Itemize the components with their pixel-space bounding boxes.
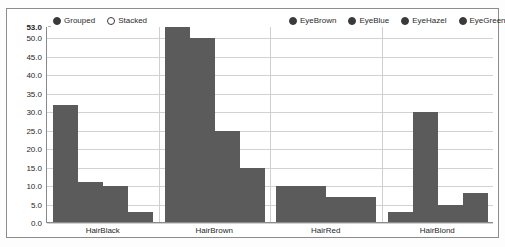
bar[interactable] xyxy=(215,131,240,223)
bar[interactable] xyxy=(413,112,438,223)
bar[interactable] xyxy=(53,105,78,223)
bar-group-hairblack xyxy=(47,27,159,223)
bar[interactable] xyxy=(240,168,265,223)
y-axis-tick-label: 25.0 xyxy=(26,126,42,135)
bar[interactable] xyxy=(190,38,215,223)
x-axis-line xyxy=(46,222,493,223)
x-axis-tick-label: HairBlond xyxy=(382,225,494,239)
bar[interactable] xyxy=(326,197,351,223)
plot-area xyxy=(47,27,493,223)
bar[interactable] xyxy=(301,186,326,223)
gridline xyxy=(47,223,493,224)
bar[interactable] xyxy=(103,186,128,223)
y-axis-tick-label: 20.0 xyxy=(26,145,42,154)
y-axis-tick-label: 53.0 xyxy=(26,23,42,32)
chart-panel: GroupedStacked EyeBrownEyeBlueEyeHazelEy… xyxy=(6,8,499,238)
y-axis-tick-label: 45.0 xyxy=(26,52,42,61)
bar-series-container xyxy=(47,27,493,223)
bar-group-hairbrown xyxy=(159,27,271,223)
y-axis-tick-label: 0.0 xyxy=(31,219,42,228)
x-axis: HairBlackHairBrownHairRedHairBlond xyxy=(47,225,493,239)
bar-group-hairblond xyxy=(382,27,494,223)
bar[interactable] xyxy=(351,197,376,223)
y-axis-tick-label: 30.0 xyxy=(26,108,42,117)
bar[interactable] xyxy=(78,182,103,223)
y-axis-tick-label: 5.0 xyxy=(31,200,42,209)
x-axis-tick-label: HairBrown xyxy=(159,225,271,239)
x-axis-tick-label: HairRed xyxy=(270,225,382,239)
chart-screenshot: GroupedStacked EyeBrownEyeBlueEyeHazelEy… xyxy=(0,0,505,247)
y-axis-tick-label: 40.0 xyxy=(26,71,42,80)
bar[interactable] xyxy=(438,205,463,223)
bar[interactable] xyxy=(276,186,301,223)
y-axis-tick-label: 50.0 xyxy=(26,34,42,43)
y-axis-tick-label: 10.0 xyxy=(26,182,42,191)
y-axis-tick-label: 35.0 xyxy=(26,89,42,98)
x-axis-tick-label: HairBlack xyxy=(47,225,159,239)
bar[interactable] xyxy=(165,27,190,223)
y-axis-tick-label: 15.0 xyxy=(26,163,42,172)
y-axis: 53.050.045.040.035.030.025.020.015.010.0… xyxy=(11,27,45,223)
bar[interactable] xyxy=(463,193,488,223)
bar-group-hairred xyxy=(270,27,382,223)
plot-wrapper: 53.050.045.040.035.030.025.020.015.010.0… xyxy=(7,9,500,239)
